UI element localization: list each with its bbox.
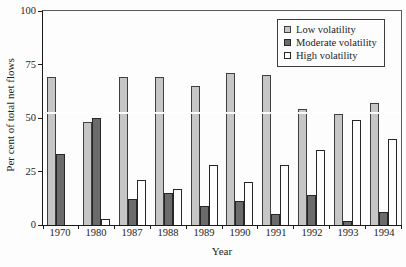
bar-low-volatility-1990	[226, 73, 235, 225]
bar-high-volatility-1990	[244, 182, 253, 225]
bar-low-volatility-1988	[155, 77, 164, 225]
bar-group-1988	[150, 11, 186, 225]
legend-item-high-volatility: High volatility	[284, 49, 377, 62]
legend-marker-high-volatility-icon	[284, 52, 291, 59]
bar-low-volatility-1994	[370, 103, 379, 225]
bar-high-volatility-1987	[137, 180, 146, 225]
y-tick-label-0: 0	[6, 219, 36, 231]
x-label-1993: 1993	[330, 227, 366, 238]
bar-group-1980	[79, 11, 115, 225]
bar-high-volatility-1991	[280, 165, 289, 225]
legend-marker-low-volatility-icon	[284, 26, 291, 33]
x-label-1970: 1970	[42, 227, 78, 238]
bar-group-1990	[222, 11, 258, 225]
bar-moderate-volatility-1988	[164, 193, 173, 225]
bar-moderate-volatility-1989	[200, 206, 209, 225]
bar-low-volatility-1992	[298, 109, 307, 225]
bar-chart-figure: Per cent of total net flows 0255075100 L…	[0, 0, 406, 267]
y-tick-label-25: 25	[6, 166, 36, 178]
bar-moderate-volatility-1980	[92, 118, 101, 225]
bar-moderate-volatility-1990	[235, 201, 244, 225]
y-tick-label-50: 50	[6, 112, 36, 124]
bar-group-1970	[43, 11, 79, 225]
legend-item-low-volatility: Low volatility	[284, 23, 377, 36]
y-tick-label-100: 100	[6, 5, 36, 17]
x-axis-title: Year	[42, 245, 402, 257]
bar-moderate-volatility-1970	[56, 154, 65, 225]
bar-moderate-volatility-1987	[128, 199, 137, 225]
bar-low-volatility-1970	[47, 77, 56, 225]
bar-group-1987	[115, 11, 151, 225]
bar-high-volatility-1993	[352, 120, 361, 225]
bar-high-volatility-1988	[173, 189, 182, 225]
bar-high-volatility-1989	[209, 165, 218, 225]
legend-label-high-volatility: High volatility	[296, 49, 358, 62]
y-tick-label-75: 75	[6, 59, 36, 71]
bar-moderate-volatility-1992	[307, 195, 316, 225]
x-label-1992: 1992	[294, 227, 330, 238]
bar-high-volatility-1980	[101, 219, 110, 225]
legend-label-moderate-volatility: Moderate volatility	[296, 36, 377, 49]
x-label-1990: 1990	[222, 227, 258, 238]
x-label-1994: 1994	[366, 227, 402, 238]
bar-group-1989	[186, 11, 222, 225]
legend-label-low-volatility: Low volatility	[296, 23, 356, 36]
bar-moderate-volatility-1991	[271, 214, 280, 225]
legend: Low volatility Moderate volatility High …	[277, 19, 385, 67]
x-axis-labels: 1970198019871988198919901991199219931994	[42, 227, 402, 238]
legend-marker-moderate-volatility-icon	[284, 39, 291, 46]
bar-low-volatility-1987	[119, 77, 128, 225]
plot-area: 0255075100 Low volatility Moderate volat…	[42, 10, 402, 226]
x-label-1988: 1988	[150, 227, 186, 238]
bar-low-volatility-1980	[83, 122, 92, 225]
bar-low-volatility-1991	[262, 75, 271, 225]
legend-item-moderate-volatility: Moderate volatility	[284, 36, 377, 49]
bar-high-volatility-1994	[388, 139, 397, 225]
x-label-1991: 1991	[258, 227, 294, 238]
x-label-1980: 1980	[78, 227, 114, 238]
x-label-1989: 1989	[186, 227, 222, 238]
bar-low-volatility-1989	[191, 86, 200, 225]
bar-moderate-volatility-1993	[343, 221, 352, 225]
bar-low-volatility-1993	[334, 114, 343, 225]
x-label-1987: 1987	[114, 227, 150, 238]
bar-moderate-volatility-1994	[379, 212, 388, 225]
bar-high-volatility-1992	[316, 150, 325, 225]
